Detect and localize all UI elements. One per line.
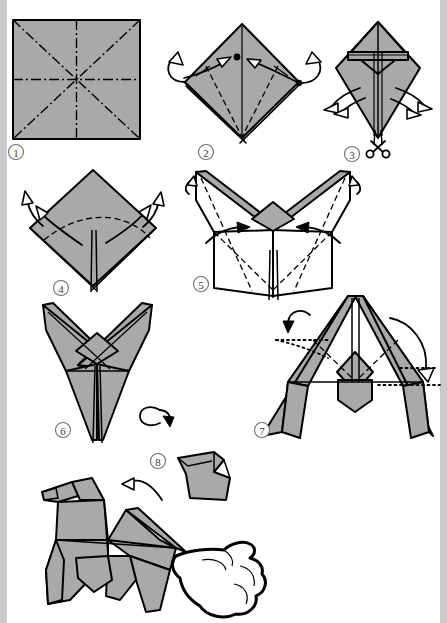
step4-diamond-body [30,170,156,286]
step1-number: 1 [13,147,19,159]
step-3-number-badge: 3 [345,147,360,162]
step7-tail-chevron [338,380,372,412]
origami-instruction-page: 1 [0,0,447,623]
step-6-number-badge: 6 [56,423,71,438]
step-2-figure [168,24,321,143]
origami-diagram: 1 [0,0,447,623]
page-left-margin-strip [0,0,7,623]
step6-turnover-arc [140,407,160,425]
step-8-figure [178,452,230,500]
step-8-number-badge: 8 [151,454,166,469]
step7-arrow-left-line [288,311,310,322]
step-5-number-badge: 5 [194,277,209,292]
hand-outline [173,542,266,616]
scissors-icon [366,141,389,158]
step-3-figure [324,22,432,158]
step-7-number-badge: 7 [255,423,270,438]
step7-limb-left-outer [262,296,348,436]
final-callout-arrow-head [122,478,134,490]
step5-centre-slit-left [269,250,270,300]
final-figure [42,478,265,617]
page-right-margin-strip [440,0,447,623]
step6-turnover-head [163,416,174,427]
step2-turnover-arrow-head [306,52,321,64]
step7-limb-left-lower [282,382,308,438]
step3-number: 3 [349,149,355,161]
step7-number: 7 [259,425,265,437]
step-1-figure [13,20,140,139]
step4-number: 4 [58,283,64,295]
step4-arrow-left2-head [22,191,33,205]
pointing-hand-icon [173,542,266,616]
step4-arrow-right2-head [153,192,164,206]
step7-limb-right-lower [403,382,429,438]
final-neck [56,500,108,540]
step-7-figure [262,296,440,438]
step2-reference-dot [234,54,241,61]
step4-centre-slit-right [96,230,97,292]
turn-over-icon [140,407,174,427]
step3-pull-arrow-left1-head [324,103,338,113]
step5-centre-slit-right [277,250,278,300]
step2-number: 2 [203,147,209,159]
step-1-number-badge: 1 [9,145,24,160]
step-4-figure [22,170,164,292]
step4-centre-slit-left [91,230,92,292]
step-2-number-badge: 2 [199,145,214,160]
step2-turnover-arrow-left-head [169,52,183,65]
step-5-figure [186,171,360,300]
step-4-number-badge: 4 [54,281,69,296]
step5-number: 5 [198,279,204,291]
step7-arrow-left-head [283,321,294,333]
step6-number: 6 [60,425,66,437]
step8-number: 8 [155,456,161,468]
step8-head-shape [178,452,230,500]
step3-pull-arrow-right1-head [418,102,432,112]
